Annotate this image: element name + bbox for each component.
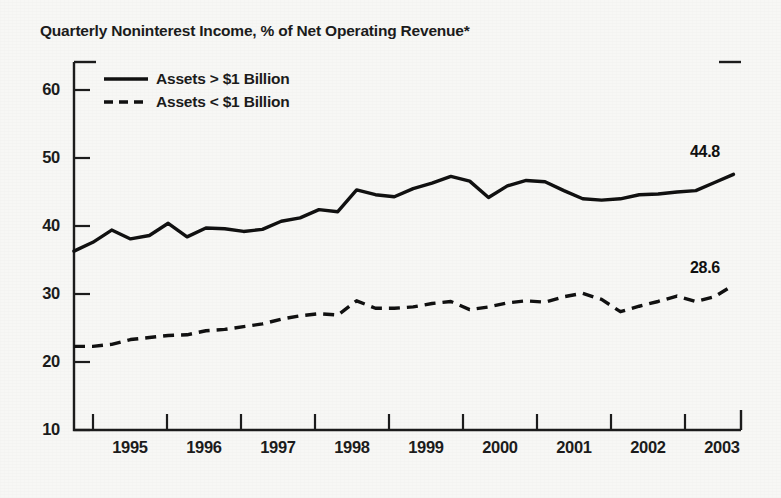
axis-spines <box>74 62 741 430</box>
endpoint-label-large-banks: 44.8 <box>690 143 720 161</box>
x-axis-label-2000: 2000 <box>465 438 535 457</box>
y-axis-label-20: 20 <box>20 352 60 371</box>
series-line-large-banks <box>74 174 733 251</box>
axis-frame <box>74 62 741 430</box>
x-axis-label-2003: 2003 <box>687 438 757 457</box>
x-axis-label-2002: 2002 <box>613 438 683 457</box>
y-axis-label-10: 10 <box>20 420 60 439</box>
x-axis-label-1995: 1995 <box>95 438 165 457</box>
x-axis-label-1998: 1998 <box>317 438 387 457</box>
y-axis-label-50: 50 <box>20 148 60 167</box>
endpoint-label-small-banks: 28.6 <box>690 259 720 277</box>
y-axis-label-60: 60 <box>20 80 60 99</box>
x-axis-label-1999: 1999 <box>391 438 461 457</box>
legend-swatches <box>104 79 148 102</box>
chart-figure: Quarterly Noninterest Income, % of Net O… <box>0 0 781 498</box>
series-line-small-banks <box>74 285 733 346</box>
y-axis-label-40: 40 <box>20 216 60 235</box>
plot-area <box>0 0 781 498</box>
legend-label-large-banks: Assets > $1 Billion <box>156 70 290 88</box>
x-axis-label-1997: 1997 <box>243 438 313 457</box>
x-axis-label-1996: 1996 <box>169 438 239 457</box>
y-axis-ticks <box>74 90 90 430</box>
y-axis-label-30: 30 <box>20 284 60 303</box>
x-axis-label-2001: 2001 <box>539 438 609 457</box>
legend-label-small-banks: Assets < $1 Billion <box>156 93 290 111</box>
x-axis-ticks <box>93 414 685 430</box>
